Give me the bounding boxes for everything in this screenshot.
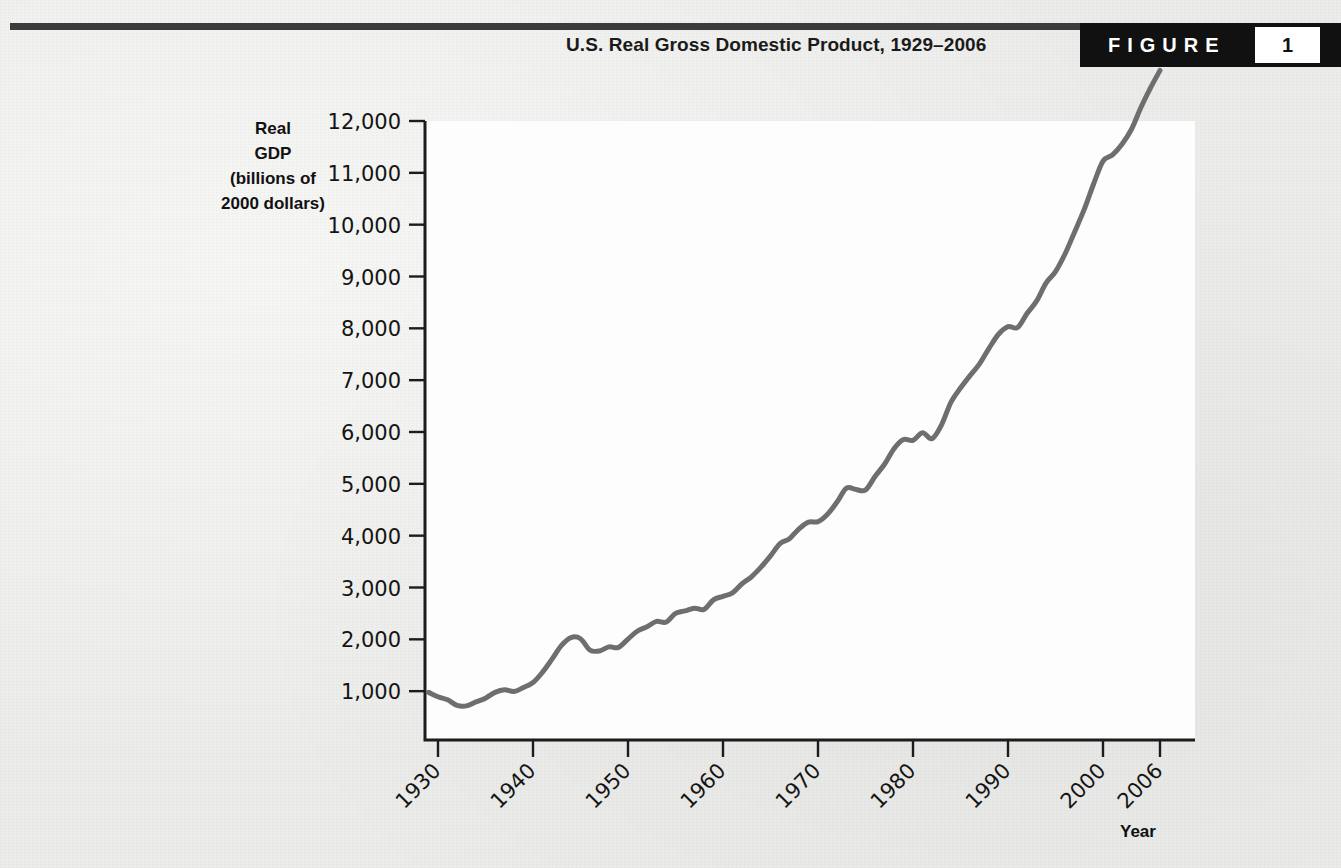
y-tick-label: 5,000 <box>341 473 401 497</box>
x-tick-label: 1930 <box>391 759 446 814</box>
x-tick-label: 1980 <box>866 759 921 814</box>
y-tick-label: 12,000 <box>328 110 401 134</box>
y-axis-ticks: 1,0002,0003,0004,0005,0006,0007,0008,000… <box>328 110 425 704</box>
y-tick-label: 3,000 <box>341 577 401 601</box>
y-tick-label: 4,000 <box>341 525 401 549</box>
x-tick-label: 1970 <box>771 759 826 814</box>
x-tick-label: 2006 <box>1113 759 1168 814</box>
x-tick-label: 1960 <box>676 759 731 814</box>
x-tick-label: 2000 <box>1056 759 1111 814</box>
plot-area-background <box>425 121 1195 740</box>
y-tick-label: 8,000 <box>341 317 401 341</box>
x-tick-label: 1950 <box>581 759 636 814</box>
y-tick-label: 7,000 <box>341 369 401 393</box>
y-tick-label: 11,000 <box>328 162 401 186</box>
y-tick-label: 6,000 <box>341 421 401 445</box>
x-tick-label: 1990 <box>961 759 1016 814</box>
y-tick-label: 10,000 <box>328 214 401 238</box>
y-tick-label: 1,000 <box>341 680 401 704</box>
x-tick-label: 1940 <box>486 759 541 814</box>
y-tick-label: 9,000 <box>341 266 401 290</box>
gdp-line-chart: 1,0002,0003,0004,0005,0006,0007,0008,000… <box>0 0 1341 868</box>
y-tick-label: 2,000 <box>341 628 401 652</box>
x-axis-ticks: 193019401950196019701980199020002006 <box>391 740 1168 813</box>
